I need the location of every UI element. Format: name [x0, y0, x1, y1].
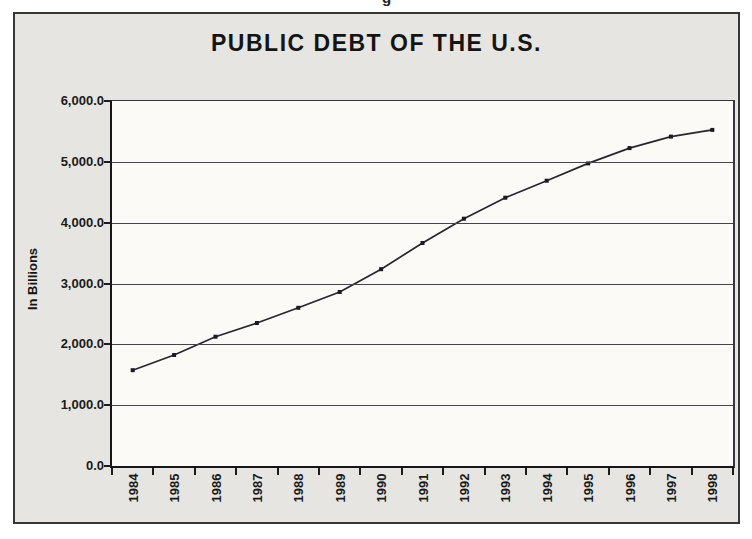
y-tick-label: 3,000.0	[17, 276, 104, 291]
x-tick-mark	[649, 468, 651, 475]
y-tick-label: 5,000.0	[17, 154, 104, 169]
x-tick-label: 1992	[457, 468, 471, 508]
x-tick-label: 1995	[581, 468, 595, 508]
x-tick-label: 1997	[664, 468, 678, 508]
y-tick-mark	[104, 465, 111, 467]
chart-frame: PUBLIC DEBT OF THE U.S. In Billions 0.01…	[13, 12, 740, 524]
x-tick-mark	[566, 468, 568, 475]
gridline	[112, 223, 733, 224]
data-point-marker	[421, 241, 425, 245]
x-tick-label: 1989	[333, 468, 347, 508]
y-tick-mark	[104, 100, 111, 102]
data-point-marker	[338, 290, 342, 294]
x-tick-mark	[359, 468, 361, 475]
x-tick-mark	[235, 468, 237, 475]
x-tick-mark	[194, 468, 196, 475]
data-point-marker	[379, 267, 383, 271]
chart-title: PUBLIC DEBT OF THE U.S.	[15, 30, 738, 57]
cropped-text-artifact: g	[380, 0, 402, 6]
x-tick-mark	[608, 468, 610, 475]
y-tick-mark	[104, 343, 111, 345]
series-line	[133, 130, 713, 370]
gridline	[112, 344, 733, 345]
y-tick-label: 0.0	[17, 458, 104, 473]
y-tick-label: 1,000.0	[17, 397, 104, 412]
y-tick-mark	[104, 222, 111, 224]
y-tick-label: 4,000.0	[17, 215, 104, 230]
data-point-marker	[296, 306, 300, 310]
x-tick-mark	[732, 468, 734, 475]
data-point-marker	[255, 321, 259, 325]
y-tick-label: 6,000.0	[17, 93, 104, 108]
x-tick-label: 1986	[209, 468, 223, 508]
cropped-text-glyph: g	[382, 0, 391, 6]
y-tick-mark	[104, 404, 111, 406]
data-point-marker	[710, 128, 714, 132]
y-tick-label: 2,000.0	[17, 336, 104, 351]
data-point-marker	[131, 368, 135, 372]
y-tick-mark	[104, 283, 111, 285]
y-tick-mark	[104, 161, 111, 163]
x-tick-label: 1987	[250, 468, 264, 508]
data-point-marker	[628, 146, 632, 150]
x-tick-mark	[111, 468, 113, 475]
x-tick-mark	[152, 468, 154, 475]
x-tick-label: 1994	[540, 468, 554, 508]
data-point-marker	[462, 217, 466, 221]
x-tick-mark	[318, 468, 320, 475]
x-tick-label: 1988	[291, 468, 305, 508]
gridline	[112, 405, 733, 406]
page: { "top_artifact": { "text": "g" }, "char…	[0, 0, 752, 539]
x-tick-mark	[277, 468, 279, 475]
data-point-marker	[669, 135, 673, 139]
x-tick-mark	[401, 468, 403, 475]
x-tick-mark	[484, 468, 486, 475]
x-tick-mark	[442, 468, 444, 475]
gridline	[112, 284, 733, 285]
x-tick-label: 1991	[416, 468, 430, 508]
x-tick-label: 1985	[167, 468, 181, 508]
x-tick-label: 1996	[623, 468, 637, 508]
data-point-marker	[214, 335, 218, 339]
x-tick-label: 1993	[498, 468, 512, 508]
x-tick-mark	[691, 468, 693, 475]
x-tick-label: 1998	[705, 468, 719, 508]
x-tick-label: 1990	[374, 468, 388, 508]
plot-area	[110, 100, 735, 468]
data-point-marker	[503, 196, 507, 200]
x-tick-mark	[525, 468, 527, 475]
data-point-marker	[172, 353, 176, 357]
data-point-marker	[545, 179, 549, 183]
x-tick-label: 1984	[126, 468, 140, 508]
gridline	[112, 162, 733, 163]
